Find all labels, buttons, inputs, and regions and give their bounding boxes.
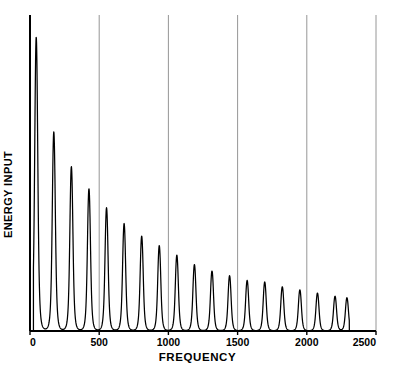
x-axis-title: FREQUENCY (0, 351, 395, 363)
y-axis-title-wrapper: ENERGY INPUT (2, 128, 20, 238)
energy-input-vs-frequency-chart: 05001000150020002500 ENERGY INPUT FREQUE… (0, 0, 395, 373)
x-tick-label-500: 500 (90, 336, 108, 348)
x-tick-label-0: 0 (30, 336, 36, 348)
x-tick-label-1500: 1500 (226, 336, 250, 348)
x-tick-label-2000: 2000 (295, 336, 319, 348)
x-tick-label-1000: 1000 (157, 336, 181, 348)
y-axis-title: ENERGY INPUT (2, 151, 14, 238)
x-tick-label-2500: 2500 (353, 336, 377, 348)
chart-plot-svg: 05001000150020002500 (0, 0, 395, 373)
